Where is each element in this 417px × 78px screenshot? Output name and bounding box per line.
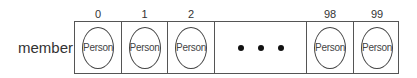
array-cell-ellipsis: [215, 22, 307, 73]
array-diagram: 0 Person 1 Person 2 Person 98 Person 99 …: [74, 21, 399, 74]
person-object: Person: [129, 27, 161, 69]
array-cell-99: 99 Person: [354, 22, 400, 73]
cell-index: 1: [122, 8, 167, 20]
array-cell-0: 0 Person: [75, 22, 122, 73]
array-cell-1: 1 Person: [122, 22, 168, 73]
array-cell-2: 2 Person: [168, 22, 215, 73]
dot: [278, 45, 284, 51]
cell-index: 2: [168, 8, 214, 20]
person-object: Person: [82, 27, 114, 69]
dot: [258, 45, 264, 51]
person-object: Person: [361, 27, 393, 69]
cell-index: 0: [75, 8, 121, 20]
array-cell-98: 98 Person: [307, 22, 354, 73]
person-object: Person: [175, 27, 207, 69]
ellipsis-icon: [215, 22, 306, 73]
array-name-label: member: [18, 39, 73, 56]
cell-index: 98: [307, 8, 353, 20]
person-object: Person: [314, 27, 346, 69]
dot: [238, 45, 244, 51]
cell-index: 99: [354, 8, 400, 20]
